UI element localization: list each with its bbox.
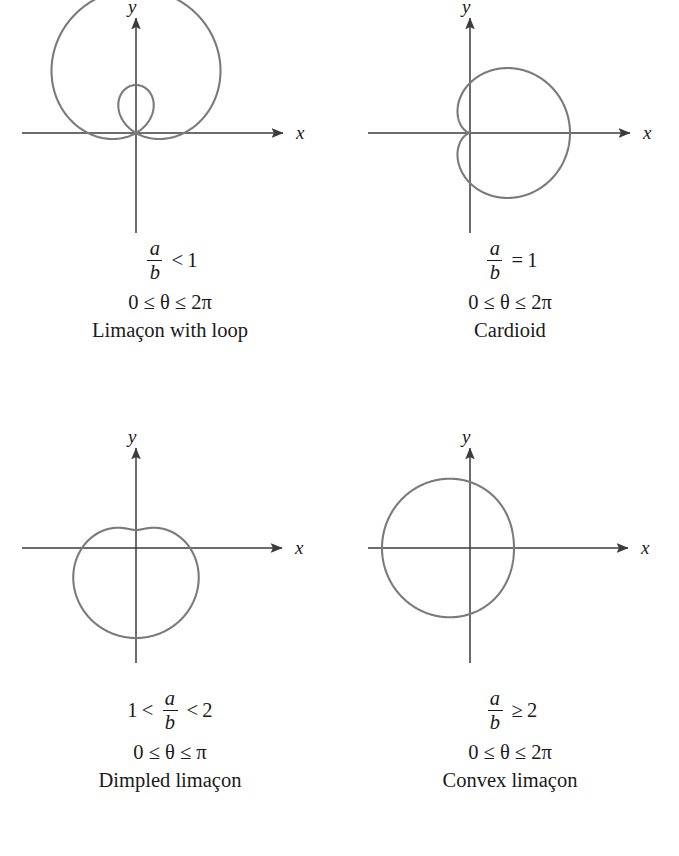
curve-name: Limaçon with loop <box>92 320 248 341</box>
plot-dimpled-limacon: x y <box>0 428 340 688</box>
fraction-denominator: b <box>488 711 502 733</box>
condition-expression: a b < 1 <box>142 238 197 283</box>
relation-symbol: < <box>187 700 199 721</box>
relation-value: 1 <box>527 250 537 271</box>
fraction-a-over-b: a b <box>488 688 503 733</box>
svg-limacon-with-loop: x y <box>0 0 340 238</box>
y-axis-label: y <box>460 0 471 17</box>
relation-value: 2 <box>527 700 537 721</box>
curve-name: Cardioid <box>474 320 546 341</box>
relation-symbol: < <box>171 250 183 271</box>
y-axis-label: y <box>126 428 137 447</box>
caption-convex-limacon: a b ≥ 2 0 ≤ θ ≤ 2π Convex limaçon <box>443 688 578 790</box>
condition-expression: a b = 1 <box>482 238 537 283</box>
fraction-a-over-b: a b <box>163 688 178 733</box>
caption-dimpled-limacon: 1 < a b < 2 0 ≤ θ ≤ π Dimpled limaçon <box>99 688 242 790</box>
fraction-a-over-b: a b <box>487 238 502 283</box>
svg-cardioid: x y <box>340 0 679 238</box>
panel-cardioid: x y a b = 1 0 ≤ θ ≤ 2π Cardioid <box>340 0 679 428</box>
theta-domain: 0 ≤ θ ≤ 2π <box>468 292 552 313</box>
plot-cardioid: x y <box>340 0 679 238</box>
panel-limacon-with-loop: x y a b < 1 0 ≤ θ ≤ 2π Limaçon with loop <box>0 0 340 428</box>
caption-cardioid: a b = 1 0 ≤ θ ≤ 2π Cardioid <box>468 238 552 340</box>
theta-domain: 0 ≤ θ ≤ 2π <box>468 742 552 763</box>
relation-value: 2 <box>202 700 212 721</box>
relation-symbol: ≥ <box>512 700 523 721</box>
theta-domain: 0 ≤ θ ≤ 2π <box>128 292 212 313</box>
plot-convex-limacon: x y <box>340 428 679 688</box>
x-axis-label: x <box>294 537 304 558</box>
fraction-numerator: a <box>148 238 162 260</box>
caption-limacon-with-loop: a b < 1 0 ≤ θ ≤ 2π Limaçon with loop <box>92 238 248 340</box>
fraction-denominator: b <box>148 261 162 283</box>
relation-value: 1 <box>187 250 197 271</box>
fraction-denominator: b <box>488 261 502 283</box>
fraction-denominator: b <box>163 711 177 733</box>
condition-expression: 1 < a b < 2 <box>127 688 212 733</box>
fraction-numerator: a <box>163 688 177 710</box>
x-axis-label: x <box>640 537 650 558</box>
limacon-chart-grid: x y a b < 1 0 ≤ θ ≤ 2π Limaçon with loop <box>0 0 679 856</box>
curve-name: Dimpled limaçon <box>99 770 242 791</box>
panel-dimpled-limacon: x y 1 < a b < 2 0 ≤ θ ≤ π Dimpled limaço… <box>0 428 340 856</box>
theta-domain: 0 ≤ θ ≤ π <box>133 742 206 763</box>
x-axis-label: x <box>642 122 652 143</box>
condition-prefix: 1 <box>127 700 137 721</box>
y-axis-label: y <box>126 0 137 17</box>
y-axis-label: y <box>460 428 471 447</box>
fraction-numerator: a <box>488 688 502 710</box>
fraction-a-over-b: a b <box>147 238 162 283</box>
svg-convex-limacon: x y <box>340 428 679 690</box>
panel-convex-limacon: x y a b ≥ 2 0 ≤ θ ≤ 2π Convex limaçon <box>340 428 679 856</box>
x-axis-label: x <box>295 122 305 143</box>
svg-dimpled-limacon: x y <box>0 428 340 690</box>
fraction-numerator: a <box>488 238 502 260</box>
condition-expression: a b ≥ 2 <box>483 688 538 733</box>
curve-name: Convex limaçon <box>443 770 578 791</box>
relation-symbol: = <box>511 250 523 271</box>
plot-limacon-with-loop: x y <box>0 0 340 238</box>
prefix-relation-symbol: < <box>142 700 154 721</box>
